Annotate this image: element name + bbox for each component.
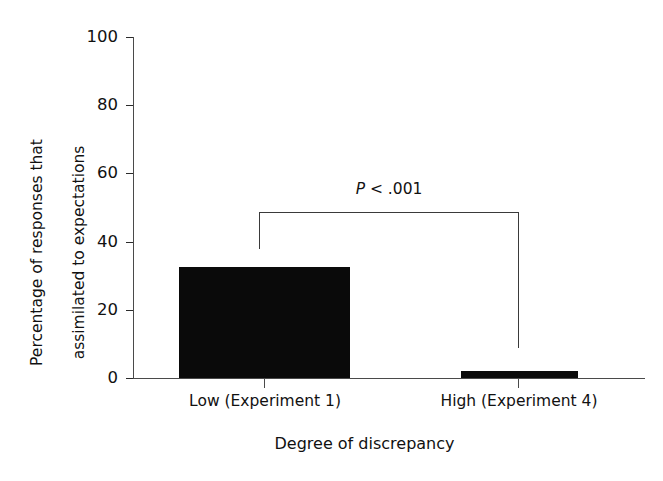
y-tick-label-100: 100: [72, 29, 118, 46]
y-tick-label-60: 60: [72, 165, 118, 182]
p-value-symbol: P: [356, 180, 365, 198]
x-axis-line: [133, 378, 645, 379]
y-axis-line: [133, 37, 134, 379]
y-axis-title-line-1: Percentage of responses that: [27, 83, 48, 423]
x-tick-label-high: High (Experiment 4): [404, 392, 634, 411]
y-tick-label-80: 80: [72, 97, 118, 114]
significance-bracket-left-arm: [259, 212, 260, 249]
x-tick-mark-high: [518, 379, 519, 388]
p-value-comparison: < .001: [365, 180, 422, 198]
y-tick-mark-100: [126, 37, 133, 38]
x-tick-label-low: Low (Experiment 1): [150, 392, 380, 411]
x-axis-title: Degree of discrepancy: [0, 434, 663, 453]
y-tick-mark-20: [126, 310, 133, 311]
y-tick-mark-40: [126, 242, 133, 243]
significance-bracket-top: [259, 212, 519, 213]
p-value-annotation: P < .001: [289, 180, 489, 198]
significance-bracket-right-arm: [518, 212, 519, 348]
y-tick-mark-80: [126, 105, 133, 106]
x-tick-mark-low: [264, 379, 265, 388]
y-tick-mark-0: [126, 378, 133, 379]
y-tick-mark-60: [126, 173, 133, 174]
bar-low-experiment-1: [179, 267, 350, 379]
bar-high-experiment-4: [461, 371, 578, 378]
bar-chart-figure: Percentage of responses that assimilated…: [0, 0, 663, 481]
y-tick-label-40: 40: [72, 234, 118, 251]
y-tick-label-20: 20: [72, 302, 118, 319]
x-axis-title-text: Degree of discrepancy: [275, 434, 455, 453]
y-tick-label-0: 0: [72, 370, 118, 387]
